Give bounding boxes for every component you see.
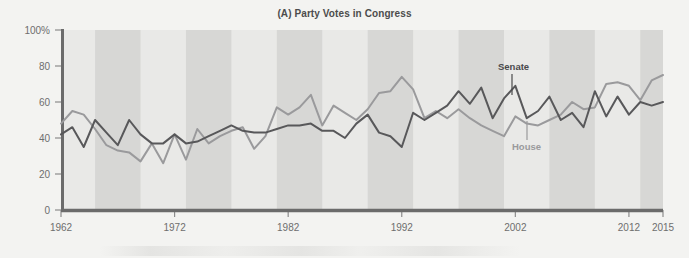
term-band: [95, 30, 140, 210]
y-tick-label: 20: [39, 169, 51, 180]
term-band: [459, 30, 504, 210]
x-tick-label: 1992: [391, 222, 414, 233]
x-tick-label: 2012: [618, 222, 641, 233]
y-tick-label: 60: [39, 97, 51, 108]
y-tick-label: 80: [39, 61, 51, 72]
chart-figure: (A) Party Votes in Congress 020406080100…: [0, 0, 689, 258]
y-axis-ticks: 020406080100%: [24, 25, 61, 216]
term-band: [186, 30, 231, 210]
x-tick-label: 2015: [652, 222, 675, 233]
term-band: [368, 30, 413, 210]
x-tick-label: 1982: [277, 222, 300, 233]
x-tick-label: 1962: [50, 222, 73, 233]
house-series-label: House: [512, 141, 541, 152]
senate-series-label: Senate: [498, 61, 529, 72]
term-band: [277, 30, 322, 210]
y-tick-label: 40: [39, 133, 51, 144]
x-tick-label: 1972: [163, 222, 186, 233]
x-tick-label: 2002: [504, 222, 527, 233]
y-tick-label: 0: [44, 205, 50, 216]
y-tick-label: 100%: [24, 25, 50, 36]
party-votes-line-chart: 020406080100% 19621972198219922002201220…: [0, 0, 689, 258]
x-axis-ticks: 1962197219821992200220122015: [50, 210, 675, 233]
term-band: [549, 30, 594, 210]
term-band: [640, 30, 663, 210]
page-scan-artifact: [100, 246, 520, 256]
